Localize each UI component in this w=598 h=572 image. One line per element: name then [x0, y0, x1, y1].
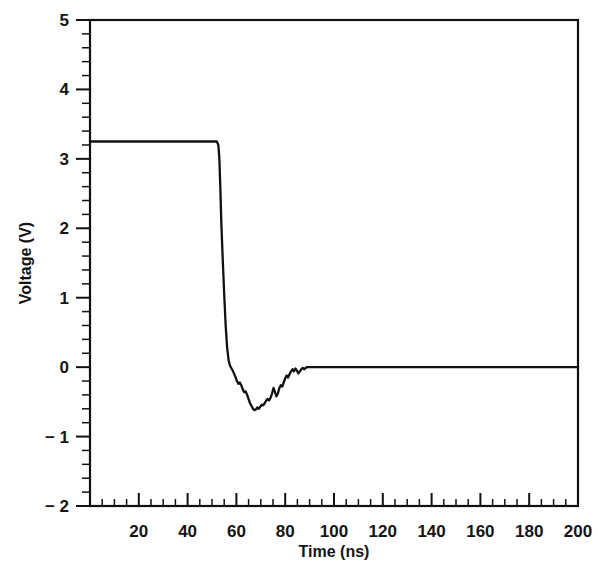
x-tick-label-140: 140 — [417, 522, 445, 541]
x-tick-label-40: 40 — [178, 522, 197, 541]
plot-frame — [90, 20, 578, 506]
chart-figure: − 2− 1012345 20406080100120140160180200 … — [0, 0, 598, 572]
y-tick-label-4: 4 — [60, 80, 70, 99]
voltage-time-plot: − 2− 1012345 20406080100120140160180200 … — [0, 0, 598, 572]
y-tick-label-5: 5 — [60, 11, 69, 30]
waveform-trace — [90, 142, 578, 411]
y-tick-label--2: − 2 — [45, 497, 69, 516]
x-axis-title: Time (ns) — [299, 543, 370, 560]
x-axis-tick-labels: 20406080100120140160180200 — [129, 522, 592, 541]
y-tick-label-2: 2 — [60, 219, 69, 238]
x-tick-label-180: 180 — [515, 522, 543, 541]
y-axis-tick-labels: − 2− 1012345 — [45, 11, 70, 516]
x-tick-label-200: 200 — [564, 522, 592, 541]
x-tick-label-160: 160 — [466, 522, 494, 541]
y-axis-title: Voltage (V) — [17, 222, 34, 304]
x-tick-label-120: 120 — [369, 522, 397, 541]
y-tick-label--1: − 1 — [45, 428, 69, 447]
y-tick-label-3: 3 — [60, 150, 69, 169]
y-tick-label-1: 1 — [60, 289, 69, 308]
x-tick-label-20: 20 — [129, 522, 148, 541]
y-tick-label-0: 0 — [60, 358, 69, 377]
x-tick-label-60: 60 — [227, 522, 246, 541]
x-tick-label-80: 80 — [276, 522, 295, 541]
x-tick-label-100: 100 — [320, 522, 348, 541]
x-axis-ticks — [90, 493, 578, 506]
y-axis-ticks — [76, 20, 90, 506]
